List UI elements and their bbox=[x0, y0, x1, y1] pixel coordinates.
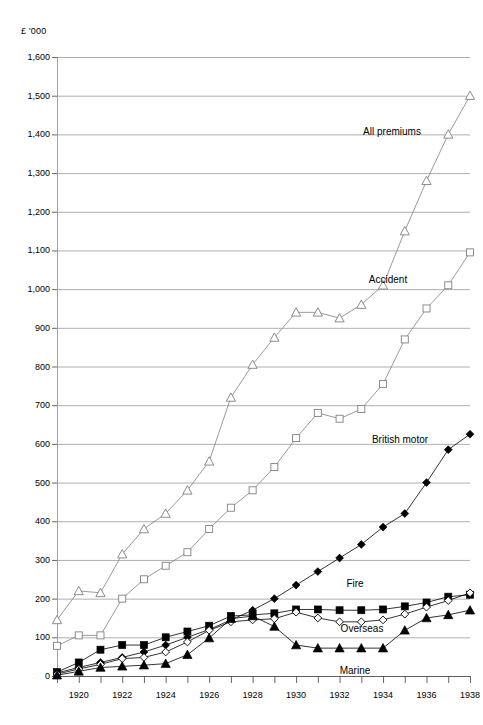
series-label-all-premiums: All premiums bbox=[363, 126, 421, 137]
x-axis-tick-label: 1924 bbox=[156, 690, 176, 700]
marker-filled-square bbox=[401, 603, 408, 610]
marker-filled-diamond bbox=[314, 568, 322, 576]
x-axis-tick-label: 1920 bbox=[69, 690, 89, 700]
marker-filled-triangle bbox=[161, 659, 170, 667]
x-axis-tick-label: 1934 bbox=[373, 690, 393, 700]
marker-open-triangle bbox=[292, 308, 301, 316]
marker-open-diamond bbox=[184, 638, 192, 646]
marker-open-triangle bbox=[313, 308, 322, 316]
marker-open-triangle bbox=[183, 486, 192, 494]
x-axis-ticks bbox=[58, 676, 471, 683]
marker-open-triangle bbox=[444, 130, 453, 138]
marker-filled-diamond bbox=[423, 479, 431, 487]
series-accident bbox=[54, 249, 474, 649]
series-fire bbox=[54, 591, 474, 675]
marker-open-square bbox=[401, 336, 408, 343]
series-marine bbox=[52, 606, 474, 679]
marker-filled-triangle bbox=[357, 644, 366, 652]
marker-open-triangle bbox=[139, 524, 148, 532]
marker-open-square bbox=[140, 576, 147, 583]
marker-filled-triangle bbox=[292, 640, 301, 648]
marker-open-triangle bbox=[226, 393, 235, 401]
marker-filled-diamond bbox=[444, 446, 452, 454]
series-british-motor bbox=[53, 430, 474, 677]
series-label-fire: Fire bbox=[346, 578, 363, 589]
series-all-premiums bbox=[52, 91, 474, 624]
marker-open-triangle bbox=[205, 457, 214, 465]
marker-open-square bbox=[293, 435, 300, 442]
marker-open-triangle bbox=[248, 360, 257, 368]
chart-plot-area bbox=[0, 0, 483, 725]
marker-open-square bbox=[249, 487, 256, 494]
marker-open-square bbox=[380, 380, 387, 387]
marker-filled-diamond bbox=[270, 595, 278, 603]
marker-open-square bbox=[271, 464, 278, 471]
marker-open-square bbox=[75, 632, 82, 639]
x-axis-tick-label: 1930 bbox=[286, 690, 306, 700]
marker-filled-triangle bbox=[465, 606, 474, 614]
marker-open-triangle bbox=[335, 314, 344, 322]
x-axis-tick-label: 1932 bbox=[330, 690, 350, 700]
series-line-accident bbox=[57, 252, 470, 645]
marker-open-triangle bbox=[74, 586, 83, 594]
marker-filled-diamond bbox=[379, 523, 387, 531]
marker-filled-square bbox=[380, 606, 387, 613]
marker-filled-square bbox=[119, 642, 126, 649]
marker-open-square bbox=[162, 562, 169, 569]
marker-open-square bbox=[97, 632, 104, 639]
marker-filled-triangle bbox=[378, 644, 387, 652]
series-label-british-motor: British motor bbox=[372, 434, 428, 445]
x-axis-tick-label: 1926 bbox=[199, 690, 219, 700]
marker-filled-square bbox=[162, 634, 169, 641]
marker-open-square bbox=[336, 415, 343, 422]
series-label-accident: Accident bbox=[369, 274, 407, 285]
series-label-overseas: Overseas bbox=[341, 623, 384, 634]
marker-filled-triangle bbox=[335, 644, 344, 652]
marker-filled-triangle bbox=[270, 622, 279, 630]
marker-filled-diamond bbox=[401, 510, 409, 518]
marker-open-triangle bbox=[400, 226, 409, 234]
marker-filled-diamond bbox=[357, 541, 365, 549]
marker-filled-square bbox=[97, 646, 104, 653]
marker-open-diamond bbox=[314, 614, 322, 622]
marker-open-diamond bbox=[401, 610, 409, 618]
marker-filled-triangle bbox=[400, 626, 409, 634]
chart-container: £ '000 01002003004005006007008009001,000… bbox=[0, 0, 483, 725]
marker-open-square bbox=[206, 525, 213, 532]
y-axis-ticks bbox=[52, 58, 57, 677]
marker-open-square bbox=[184, 549, 191, 556]
marker-filled-diamond bbox=[466, 430, 474, 438]
x-axis-tick-label: 1922 bbox=[112, 690, 132, 700]
marker-open-triangle bbox=[52, 615, 61, 623]
marker-filled-square bbox=[184, 628, 191, 635]
marker-open-square bbox=[445, 282, 452, 289]
grid-lines bbox=[57, 58, 470, 677]
marker-open-square bbox=[119, 595, 126, 602]
marker-filled-square bbox=[314, 606, 321, 613]
marker-filled-square bbox=[336, 607, 343, 614]
marker-open-square bbox=[227, 504, 234, 511]
x-axis-tick-label: 1938 bbox=[460, 690, 480, 700]
x-axis-tick-label: 1936 bbox=[417, 690, 437, 700]
marker-open-square bbox=[358, 406, 365, 413]
marker-filled-diamond bbox=[292, 581, 300, 589]
marker-open-square bbox=[423, 305, 430, 312]
marker-open-triangle bbox=[422, 176, 431, 184]
marker-filled-triangle bbox=[183, 650, 192, 658]
marker-open-square bbox=[54, 642, 61, 649]
series-line-all-premiums bbox=[57, 96, 470, 620]
marker-filled-square bbox=[358, 607, 365, 614]
marker-open-square bbox=[314, 409, 321, 416]
series-overseas bbox=[53, 589, 474, 678]
marker-open-diamond bbox=[162, 648, 170, 656]
marker-open-triangle bbox=[465, 91, 474, 99]
series-line-british-motor bbox=[57, 434, 470, 673]
x-axis-tick-label: 1928 bbox=[243, 690, 263, 700]
marker-open-square bbox=[467, 249, 474, 256]
series-label-marine: Marine bbox=[340, 665, 371, 676]
marker-filled-square bbox=[140, 642, 147, 649]
